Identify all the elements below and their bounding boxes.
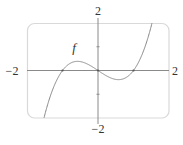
x-max-label: 2 xyxy=(172,64,178,78)
x-min-label: −2 xyxy=(6,64,19,78)
function-plot: 2 −2 −2 2 f xyxy=(0,0,183,145)
root-point xyxy=(61,69,63,71)
root-point xyxy=(97,69,99,71)
curve-label-f: f xyxy=(72,40,78,55)
y-min-label: −2 xyxy=(92,122,105,136)
y-max-label: 2 xyxy=(95,4,101,18)
root-point xyxy=(132,69,134,71)
